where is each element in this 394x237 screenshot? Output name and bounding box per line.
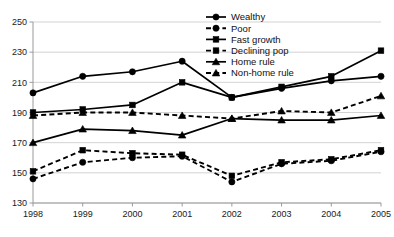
data-point-marker [378,73,384,79]
data-point-marker [378,48,384,54]
data-point-marker [279,84,285,90]
legend-label: Wealthy [231,11,265,22]
legend-label: Non-home rule [231,67,294,78]
data-point-marker [30,169,36,175]
data-point-marker [179,80,185,86]
data-series-group [29,48,385,185]
data-point-marker [179,58,185,64]
x-tick-label: 2003 [272,209,292,219]
y-tick-label: 190 [12,108,27,118]
line-chart: 250230210190170150130 199819992000200120… [0,0,394,237]
data-point-marker [328,156,334,162]
x-axis [33,203,381,207]
legend-marker [213,14,219,20]
data-point-marker [80,159,86,165]
chart-canvas: 250230210190170150130 199819992000200120… [0,0,394,237]
legend-item-home-rule: Home rule [206,56,275,67]
data-point-marker [229,179,235,185]
legend-item-poor: Poor [206,23,251,34]
data-point-marker [179,152,185,158]
data-point-marker [130,102,136,108]
data-point-marker [129,69,135,75]
data-point-marker [30,176,36,182]
y-tick-labels: 250230210190170150130 [12,17,27,208]
x-tick-label: 2004 [321,209,341,219]
legend-label: Home rule [231,56,275,67]
legend-marker [213,48,219,54]
data-point-marker [30,90,36,96]
x-tick-label: 2005 [371,209,391,219]
legend-item-wealthy: Wealthy [206,11,265,22]
data-point-marker [130,150,136,156]
y-tick-label: 230 [12,47,27,57]
y-tick-label: 210 [12,78,27,88]
y-tick-label: 150 [12,168,27,178]
legend-item-non-home-rule: Non-home rule [206,67,294,78]
x-tick-label: 2002 [222,209,242,219]
data-point-marker [229,173,235,179]
legend-marker [213,25,219,31]
x-tick-label: 1998 [23,209,43,219]
data-point-marker [378,147,384,153]
data-point-marker [80,73,86,79]
legend-label: Fast growth [231,34,281,45]
x-tick-label: 1999 [73,209,93,219]
data-point-marker [328,74,334,80]
x-tick-labels: 19981999200020012002200320042005 [23,209,391,219]
x-tick-label: 2001 [172,209,192,219]
data-point-marker [279,159,285,165]
legend-marker [213,37,219,43]
data-point-marker [229,95,235,101]
data-point-marker [377,92,385,99]
data-point-marker [80,147,86,153]
legend-item-declining-pop: Declining pop [206,45,289,56]
y-tick-label: 250 [12,17,27,27]
legend-label: Declining pop [231,45,289,56]
chart-legend: WealthyPoorFast growthDeclining popHome … [206,11,294,78]
series-line [33,116,381,143]
x-tick-label: 2000 [122,209,142,219]
series-poor [30,149,384,185]
y-tick-label: 130 [12,198,27,208]
legend-label: Poor [231,23,251,34]
y-tick-label: 170 [12,138,27,148]
legend-item-fast-growth: Fast growth [206,34,281,45]
